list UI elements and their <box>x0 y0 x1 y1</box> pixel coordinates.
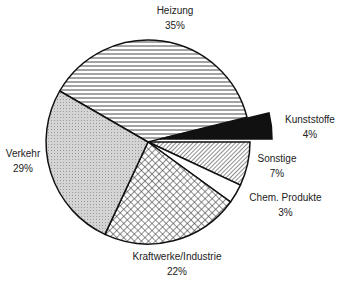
label-heizung: Heizung35% <box>140 3 210 33</box>
pie-chart <box>0 0 341 285</box>
label-verkehr: Verkehr29% <box>3 146 43 176</box>
label-kraftwerke: Kraftwerke/Industrie22% <box>122 249 232 279</box>
label-sonstige: Sonstige7% <box>252 151 302 181</box>
label-kunststoffe: Kunststoffe4% <box>282 112 338 142</box>
label-chem-produkte: Chem. Produkte3% <box>243 190 328 220</box>
